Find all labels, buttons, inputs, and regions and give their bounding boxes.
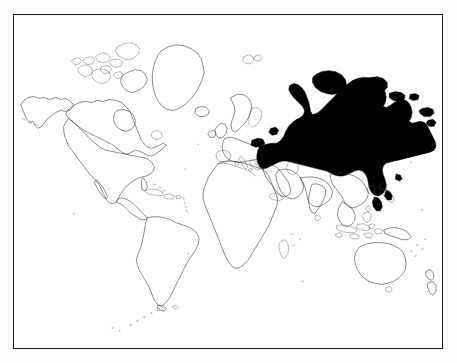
region-hispaniola-puerto-rico xyxy=(164,194,181,199)
region-iberia xyxy=(216,150,231,162)
region-cuba xyxy=(145,189,163,196)
region-scandinavia xyxy=(231,95,252,133)
region-indonesia xyxy=(335,224,383,239)
region-south-america xyxy=(136,217,199,306)
region-new-guinea xyxy=(384,228,411,240)
region-canada-mainland xyxy=(66,99,167,156)
map-figure xyxy=(0,0,457,363)
region-south-atlantic-islands xyxy=(112,305,165,332)
region-sri-lanka xyxy=(316,215,321,221)
region-florida xyxy=(141,178,147,191)
region-arctic-islands-cluster xyxy=(72,53,124,79)
region-africa xyxy=(203,161,278,268)
region-australia xyxy=(354,243,406,285)
region-southeast-asia xyxy=(337,202,355,227)
region-iceland xyxy=(195,106,209,116)
region-hudson-bay xyxy=(114,109,136,131)
region-bahamas xyxy=(153,184,165,191)
region-newfoundland xyxy=(151,130,162,139)
region-banks-island xyxy=(78,65,93,77)
region-greenland xyxy=(152,45,204,111)
region-south-asia xyxy=(301,177,333,207)
region-china-east-asia xyxy=(331,173,369,208)
region-taiwan xyxy=(365,206,370,212)
region-tasmania xyxy=(386,286,392,292)
region-india xyxy=(309,184,326,214)
region-russia-highlight xyxy=(251,71,436,211)
region-finland-baltic xyxy=(249,107,262,127)
region-aleutian-islands xyxy=(22,118,38,125)
region-ellesmere-island xyxy=(116,43,140,60)
region-madagascar xyxy=(279,240,289,259)
region-indian-ocean-islands xyxy=(291,234,301,246)
region-alaska xyxy=(21,97,74,129)
region-british-isles xyxy=(208,123,227,138)
region-new-zealand xyxy=(426,269,436,295)
region-baffin-island xyxy=(121,70,148,93)
region-falkland-islands xyxy=(173,305,178,309)
world-map-canvas xyxy=(14,15,442,348)
region-lesser-antilles xyxy=(183,198,187,212)
region-usa-mexico xyxy=(64,118,155,203)
region-pacific-islands xyxy=(410,239,426,257)
map-frame-border xyxy=(13,14,443,349)
region-central-america xyxy=(117,198,148,220)
region-svalbard xyxy=(243,55,262,64)
